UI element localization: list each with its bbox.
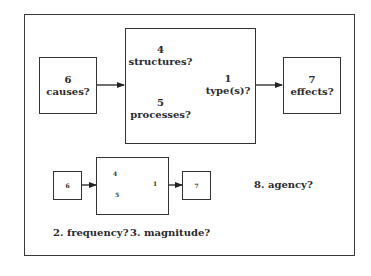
small-effects-box: 7 bbox=[182, 171, 211, 200]
effects-number: 7 bbox=[284, 74, 340, 86]
processes-label: processes? bbox=[125, 109, 196, 121]
small-effects-number: 7 bbox=[183, 182, 210, 190]
small-types-number: 1 bbox=[150, 180, 160, 188]
structures-number: 4 bbox=[125, 44, 196, 56]
effects-box: 7 effects? bbox=[283, 57, 341, 114]
small-causes-box: 6 bbox=[53, 171, 82, 200]
types-label: type(s)? bbox=[201, 85, 255, 97]
magnitude-note: 3. magnitude? bbox=[130, 227, 210, 238]
small-causes-number: 6 bbox=[54, 182, 81, 190]
structures-section: 4 structures? bbox=[125, 44, 196, 68]
processes-number: 5 bbox=[125, 97, 196, 109]
causes-number: 6 bbox=[40, 74, 96, 86]
causes-box: 6 causes? bbox=[39, 57, 97, 114]
small-structures-number: 4 bbox=[110, 170, 120, 178]
types-number: 1 bbox=[201, 73, 255, 85]
causes-label: causes? bbox=[40, 86, 96, 98]
effects-label: effects? bbox=[284, 86, 340, 98]
types-section: 1 type(s)? bbox=[201, 73, 255, 97]
small-processes-number: 5 bbox=[112, 191, 122, 199]
processes-section: 5 processes? bbox=[125, 97, 196, 121]
agency-note: 8. agency? bbox=[254, 179, 313, 190]
frequency-note: 2. frequency? bbox=[53, 227, 129, 238]
structures-label: structures? bbox=[125, 56, 196, 68]
